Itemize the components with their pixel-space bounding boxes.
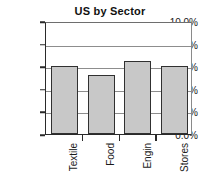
bar-stores: [161, 66, 188, 134]
x-axis-label-food: Food: [105, 143, 116, 166]
gridline: [46, 46, 191, 47]
x-axis-tick: [155, 135, 157, 141]
x-axis-label-textile: Textile: [68, 143, 79, 171]
x-axis-label-stores: Stores: [179, 143, 190, 172]
x-axis-label-engin: Engin: [142, 143, 153, 169]
x-axis-tick: [82, 135, 84, 141]
chart-title: US by Sector: [0, 5, 202, 17]
bar-food: [88, 75, 115, 134]
bar-engin: [124, 61, 151, 134]
x-axis-tick: [119, 135, 121, 141]
plot-area: [45, 22, 192, 135]
bar-chart: US by Sector 0.0%2.0%4.0%6.0%8.0%10.0% T…: [0, 0, 202, 185]
bar-textile: [51, 66, 78, 134]
